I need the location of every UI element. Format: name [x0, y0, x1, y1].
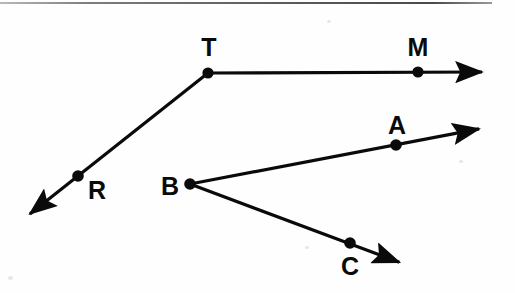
point-dot-M — [412, 66, 423, 77]
point-dot-T — [202, 67, 213, 78]
rays-group — [30, 72, 482, 262]
point-label-M: M — [408, 35, 429, 60]
ray-BC — [190, 184, 399, 262]
point-label-B: B — [161, 174, 179, 199]
diagram-svg — [0, 0, 515, 293]
ray-TR — [30, 73, 208, 214]
point-dot-R — [72, 170, 84, 182]
point-label-R: R — [88, 178, 106, 203]
point-dot-B — [184, 178, 196, 190]
point-label-A: A — [388, 113, 406, 138]
ray-BA — [190, 129, 479, 184]
point-label-T: T — [201, 35, 216, 60]
point-label-C: C — [341, 254, 359, 279]
ray-TM — [208, 72, 482, 73]
point-dot-C — [344, 237, 356, 249]
points-group — [72, 66, 423, 248]
diagram-canvas: T M R B A C — [0, 0, 515, 293]
point-dot-A — [390, 139, 402, 151]
